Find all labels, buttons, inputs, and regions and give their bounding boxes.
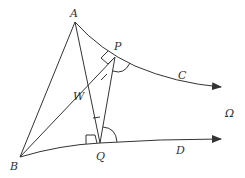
label-b: B xyxy=(9,160,18,173)
segment-bp xyxy=(20,57,115,157)
geometry-diagram: A P C W Ω Q D B xyxy=(0,0,245,178)
label-p: P xyxy=(113,40,122,53)
label-c: C xyxy=(178,69,187,82)
label-q: Q xyxy=(96,150,105,163)
tick-mark-wq xyxy=(93,117,100,118)
curve-d xyxy=(20,139,221,157)
label-d: D xyxy=(175,144,185,157)
segment-ab xyxy=(20,22,75,157)
tick-mark-pw xyxy=(101,74,107,80)
segment-aq xyxy=(75,22,100,143)
right-angle-marker-q xyxy=(86,135,97,144)
curve-c xyxy=(75,22,221,87)
label-w: W xyxy=(73,90,86,103)
label-a: A xyxy=(69,7,78,20)
angle-arc-p xyxy=(113,63,130,72)
angle-arc-q xyxy=(103,127,117,142)
label-omega: Ω xyxy=(224,107,234,120)
